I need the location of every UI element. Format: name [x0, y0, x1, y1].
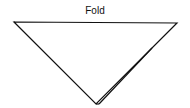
fold-label: Fold	[0, 5, 190, 17]
triangle-outline	[14, 22, 177, 104]
fold-diagram: Fold	[0, 0, 190, 108]
fold-inner-edge	[99, 48, 152, 104]
